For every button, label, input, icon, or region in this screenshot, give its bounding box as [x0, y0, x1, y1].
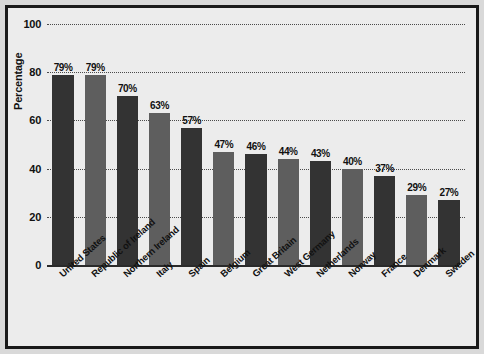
bar-denmark: [406, 195, 427, 265]
y-tick-label-100: 100: [0, 18, 41, 30]
y-axis-title: Percentage: [12, 53, 24, 110]
value-label-great-britain: 46%: [247, 141, 266, 152]
value-label-spain: 57%: [182, 115, 201, 126]
y-tick-label-0: 0: [0, 259, 41, 271]
value-label-sweden: 27%: [440, 187, 459, 198]
y-tick-label-40: 40: [0, 163, 41, 175]
y-tick-label-60: 60: [0, 114, 41, 126]
value-label-netherlands: 43%: [311, 148, 330, 159]
value-label-west-germany: 44%: [279, 146, 298, 157]
figure-page: Percentage 020406080100 79%79%70%63%57%4…: [0, 0, 484, 354]
value-label-belgium: 47%: [214, 139, 233, 150]
bar-great-britain: [245, 154, 266, 265]
value-label-denmark: 29%: [407, 182, 426, 193]
gridline-80: [47, 72, 465, 73]
value-label-france: 37%: [375, 163, 394, 174]
gridline-100: [47, 24, 465, 25]
bar-spain: [181, 128, 202, 265]
value-label-norway: 40%: [343, 156, 362, 167]
gridline-60: [47, 120, 465, 121]
value-label-italy: 63%: [150, 100, 169, 111]
bar-france: [374, 176, 395, 265]
bar-belgium: [213, 152, 234, 265]
y-tick-label-80: 80: [0, 66, 41, 78]
y-tick-label-20: 20: [0, 211, 41, 223]
value-label-united-states: 79%: [54, 62, 73, 73]
value-label-northern-ireland: 70%: [118, 83, 137, 94]
bar-united-states: [52, 75, 73, 265]
value-label-republic-of-ireland: 79%: [86, 62, 105, 73]
plot-area: 79%79%70%63%57%47%46%44%43%40%37%29%27%: [47, 24, 465, 265]
